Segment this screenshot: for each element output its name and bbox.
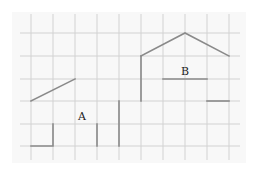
grid-diagram: A B [0,0,260,173]
label-b: B [181,65,189,78]
label-a: A [77,110,87,123]
figure-a-step-line [31,124,53,146]
